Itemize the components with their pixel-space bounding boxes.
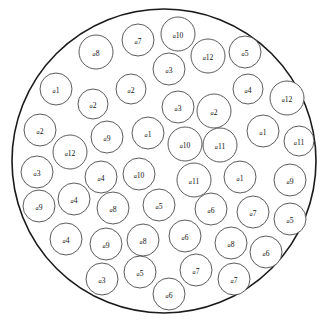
packed-circle-a5[interactable]: a5: [274, 203, 306, 235]
circle-shape[interactable]: [224, 161, 256, 193]
packed-circle-a6[interactable]: a6: [195, 193, 227, 225]
circle-shape[interactable]: [162, 91, 194, 123]
packed-circle-a6[interactable]: a6: [169, 220, 201, 252]
packed-circle-a1[interactable]: a1: [132, 117, 164, 149]
circle-shape[interactable]: [50, 223, 82, 255]
circle-shape[interactable]: [124, 256, 156, 288]
packed-circle-a8[interactable]: a8: [127, 224, 159, 256]
packed-circle-a2[interactable]: a2: [197, 94, 231, 128]
packing-svg-canvas: a10a7a8a5a12a3a1a2a4a12a2a3a2a2a9a1a1a10…: [0, 0, 328, 323]
circle-shape[interactable]: [161, 17, 195, 51]
circle-shape[interactable]: [270, 81, 304, 115]
circle-shape[interactable]: [284, 126, 314, 156]
packed-circle-a12[interactable]: a12: [270, 81, 304, 115]
packed-circle-a9[interactable]: a9: [274, 164, 306, 196]
packed-circle-a9[interactable]: a9: [91, 121, 123, 153]
packed-circle-a7[interactable]: a7: [122, 24, 154, 56]
packed-circle-a12[interactable]: a12: [191, 39, 225, 73]
circle-packing-figure: a10a7a8a5a12a3a1a2a4a12a2a3a2a2a9a1a1a10…: [0, 0, 328, 323]
circle-shape[interactable]: [23, 190, 55, 222]
circle-shape[interactable]: [122, 24, 154, 56]
packed-circle-a9[interactable]: a9: [90, 228, 122, 260]
circle-shape[interactable]: [127, 224, 159, 256]
circle-shape[interactable]: [86, 263, 118, 295]
circle-shape[interactable]: [274, 164, 306, 196]
packed-circle-a12[interactable]: a12: [53, 135, 87, 169]
packed-circle-a5[interactable]: a5: [229, 36, 261, 68]
packed-circle-a3[interactable]: a3: [21, 156, 53, 188]
circle-shape[interactable]: [195, 193, 227, 225]
packed-circle-a9[interactable]: a9: [23, 190, 55, 222]
circle-shape[interactable]: [53, 135, 87, 169]
packed-circle-a5[interactable]: a5: [124, 256, 156, 288]
circle-shape[interactable]: [78, 89, 108, 119]
circle-shape[interactable]: [247, 115, 279, 147]
packed-circle-a4[interactable]: a4: [233, 74, 263, 104]
packed-circle-a2[interactable]: a2: [24, 114, 56, 146]
packed-circle-a4[interactable]: a4: [50, 223, 82, 255]
circle-shape[interactable]: [24, 114, 56, 146]
circle-shape[interactable]: [97, 192, 129, 224]
circle-shape[interactable]: [274, 203, 306, 235]
circle-shape[interactable]: [85, 161, 117, 193]
circle-shape[interactable]: [180, 254, 212, 286]
packed-circle-a4[interactable]: a4: [58, 183, 90, 215]
packed-circle-a11[interactable]: a11: [284, 126, 314, 156]
circle-shape[interactable]: [116, 74, 146, 104]
packed-circle-a3[interactable]: a3: [86, 263, 118, 295]
circle-shape[interactable]: [153, 278, 185, 310]
packed-circle-a1[interactable]: a1: [247, 115, 279, 147]
circle-shape[interactable]: [215, 227, 247, 259]
circle-shape[interactable]: [203, 128, 237, 162]
circle-shape[interactable]: [197, 94, 231, 128]
circle-shape[interactable]: [250, 236, 282, 268]
circle-shape[interactable]: [153, 53, 185, 85]
packed-circle-a1[interactable]: a1: [224, 161, 256, 193]
circle-shape[interactable]: [168, 127, 202, 161]
circle-shape[interactable]: [40, 73, 72, 105]
packed-circle-a6[interactable]: a6: [153, 278, 185, 310]
circle-shape[interactable]: [21, 156, 53, 188]
circle-shape[interactable]: [90, 228, 122, 260]
packed-circle-a5[interactable]: a5: [143, 189, 175, 221]
packed-circle-a6[interactable]: a6: [250, 236, 282, 268]
circle-shape[interactable]: [237, 196, 269, 228]
packed-circle-a11[interactable]: a11: [203, 128, 237, 162]
circle-shape[interactable]: [58, 183, 90, 215]
packed-circle-a1[interactable]: a1: [40, 73, 72, 105]
circle-shape[interactable]: [218, 263, 250, 295]
packed-circle-a7[interactable]: a7: [237, 196, 269, 228]
packed-circle-a10[interactable]: a10: [123, 158, 155, 190]
packed-circle-a11[interactable]: a11: [177, 163, 211, 197]
packed-circle-a7[interactable]: a7: [180, 254, 212, 286]
circle-shape[interactable]: [91, 121, 123, 153]
packed-circle-a3[interactable]: a3: [153, 53, 185, 85]
packed-circle-a8[interactable]: a8: [79, 35, 113, 69]
circle-shape[interactable]: [132, 117, 164, 149]
packed-circle-a2[interactable]: a2: [116, 74, 146, 104]
circle-shape[interactable]: [177, 163, 211, 197]
circle-shape[interactable]: [191, 39, 225, 73]
packed-circle-a8[interactable]: a8: [97, 192, 129, 224]
packed-circle-a7[interactable]: a7: [218, 263, 250, 295]
circle-shape[interactable]: [143, 189, 175, 221]
circle-shape[interactable]: [169, 220, 201, 252]
packed-circle-a4[interactable]: a4: [85, 161, 117, 193]
circle-shape[interactable]: [229, 36, 261, 68]
packed-circle-a8[interactable]: a8: [215, 227, 247, 259]
packed-circle-a3[interactable]: a3: [162, 91, 194, 123]
circle-shape[interactable]: [123, 158, 155, 190]
circle-shape[interactable]: [233, 74, 263, 104]
circle-shape[interactable]: [79, 35, 113, 69]
packed-circle-a2[interactable]: a2: [78, 89, 108, 119]
packed-circle-a10[interactable]: a10: [168, 127, 202, 161]
packed-circle-a10[interactable]: a10: [161, 17, 195, 51]
